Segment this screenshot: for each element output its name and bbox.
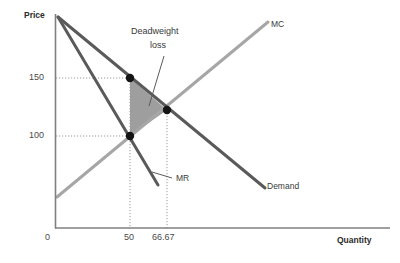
competitive-equilibrium-marker	[163, 106, 171, 114]
deadweight-loss-chart: Price Quantity 0 150 100 50 66.67 MC Dem…	[0, 0, 400, 263]
y-tick-label-100: 100	[29, 131, 44, 140]
x-tick-label-50: 50	[124, 233, 134, 242]
monopoly-price-marker	[126, 74, 134, 82]
deadweight-loss-region	[130, 78, 167, 136]
deadweight-loss-label-line2: loss	[150, 41, 166, 50]
x-tick-label-66-67: 66.67	[152, 233, 175, 242]
deadweight-loss-label-line1: Deadweight	[131, 27, 179, 36]
y-tick-label-150: 150	[29, 73, 44, 82]
demand-curve-label: Demand	[267, 182, 299, 191]
chart-canvas	[0, 0, 400, 263]
origin-label: 0	[45, 233, 50, 242]
y-axis-title: Price	[24, 11, 45, 20]
x-axis-title: Quantity	[337, 236, 371, 245]
mr-equals-mc-marker	[126, 132, 134, 140]
mc-curve-label: MC	[271, 20, 284, 29]
mr-curve-label: MR	[176, 174, 189, 183]
